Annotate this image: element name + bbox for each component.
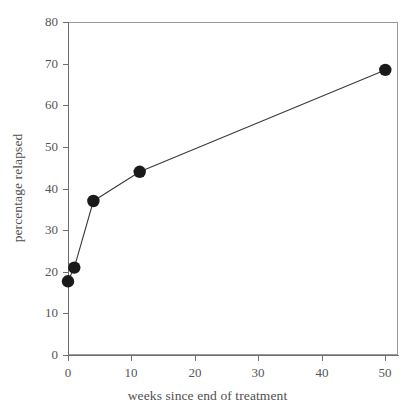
chart-figure: 01020304050607080 01020304050 weeks sinc…: [0, 0, 415, 409]
y-tick-mark: [63, 147, 68, 148]
y-tick-label: 40: [22, 182, 58, 195]
x-tick-label: 10: [111, 366, 151, 379]
y-tick-mark: [63, 189, 68, 190]
x-tick-mark: [195, 356, 196, 361]
y-tick-mark: [63, 105, 68, 106]
y-tick-label: 20: [22, 265, 58, 278]
y-tick-label: 80: [22, 15, 58, 28]
x-tick-mark: [258, 356, 259, 361]
x-tick-mark: [68, 356, 69, 361]
x-tick-label: 0: [48, 366, 88, 379]
y-tick-mark: [63, 230, 68, 231]
x-tick-mark: [131, 356, 132, 361]
y-axis-title: percentage relapsed: [10, 108, 26, 268]
y-tick-label: 70: [22, 57, 58, 70]
x-tick-label: 50: [365, 366, 405, 379]
y-axis-line: [68, 22, 69, 356]
plot-area: [68, 22, 398, 355]
y-tick-label: 60: [22, 98, 58, 111]
y-tick-label: 50: [22, 140, 58, 153]
x-tick-mark: [385, 356, 386, 361]
y-tick-label: 30: [22, 223, 58, 236]
x-tick-label: 40: [302, 366, 342, 379]
y-tick-mark: [63, 22, 68, 23]
x-tick-label: 30: [238, 366, 278, 379]
y-tick-mark: [63, 64, 68, 65]
x-axis-title: weeks since end of treatment: [0, 388, 415, 404]
y-tick-label: 10: [22, 306, 58, 319]
x-tick-label: 20: [175, 366, 215, 379]
x-axis-line: [68, 355, 399, 356]
y-tick-mark: [63, 272, 68, 273]
y-tick-label: 0: [22, 348, 58, 361]
x-tick-mark: [322, 356, 323, 361]
y-tick-mark: [63, 313, 68, 314]
